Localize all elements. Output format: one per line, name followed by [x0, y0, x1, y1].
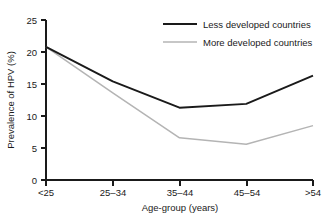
- x-tick-label-1: 25–34: [100, 187, 126, 198]
- x-axis-title: Age-group (years): [142, 202, 219, 213]
- x-tick-label-2: 35–44: [167, 187, 193, 198]
- y-tick-marks: [41, 20, 46, 180]
- x-tick-label-4: >54: [305, 187, 321, 198]
- series-line-more-developed: [46, 47, 313, 144]
- y-tick-label-10: 10: [26, 111, 37, 122]
- y-tick-label-20: 20: [26, 47, 37, 58]
- legend-label-more-developed: More developed countries: [203, 37, 313, 48]
- x-tick-labels: <25 25–34 35–44 45–54 >54: [38, 187, 321, 198]
- chart-figure: 25 20 15 10 5 0 <25 25–34 35–44 45–54 >5…: [0, 0, 332, 216]
- y-axis-title: Prevalence of HPV (%): [5, 51, 16, 149]
- legend-label-less-developed: Less developed countries: [203, 19, 311, 30]
- line-chart: 25 20 15 10 5 0 <25 25–34 35–44 45–54 >5…: [0, 0, 332, 216]
- y-tick-label-25: 25: [26, 15, 37, 26]
- x-tick-marks: [46, 180, 313, 186]
- x-tick-label-3: 45–54: [234, 187, 260, 198]
- series-line-less-developed: [46, 47, 313, 108]
- y-tick-labels: 25 20 15 10 5 0: [26, 15, 37, 186]
- y-tick-label-15: 15: [26, 79, 37, 90]
- y-tick-label-5: 5: [32, 143, 37, 154]
- x-tick-label-0: <25: [38, 187, 54, 198]
- y-tick-label-0: 0: [32, 175, 37, 186]
- chart-legend: Less developed countries More developed …: [163, 19, 313, 48]
